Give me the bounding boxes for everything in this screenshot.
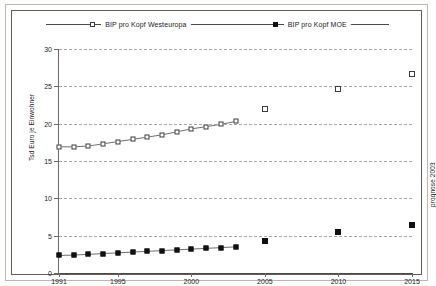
x-tick-label: 2015 xyxy=(404,278,420,285)
data-point-moe xyxy=(115,250,120,255)
data-point-moe xyxy=(159,248,164,253)
data-point-westeuropa xyxy=(159,132,164,137)
x-tick-label: 1995 xyxy=(110,278,126,285)
data-point-moe xyxy=(174,247,179,252)
legend-rule-mid-2 xyxy=(229,24,267,25)
x-tick xyxy=(338,273,339,277)
data-point-moe xyxy=(130,250,135,255)
data-point-westeuropa xyxy=(204,124,209,129)
x-tick-label: 2000 xyxy=(184,278,200,285)
legend-item-westeuropa[interactable]: BIP pro Kopf Westeuropa xyxy=(46,21,229,28)
data-point-westeuropa xyxy=(189,126,194,131)
data-point-moe xyxy=(101,251,106,256)
y-tick xyxy=(54,124,59,125)
data-point-westeuropa xyxy=(86,144,91,149)
gridline xyxy=(59,49,412,50)
plot-area: 051015202530199119952000200520102015 xyxy=(59,49,412,273)
data-point-westeuropa xyxy=(57,144,62,149)
legend-rule-left xyxy=(46,24,84,25)
data-point-westeuropa xyxy=(262,106,268,112)
y-tick-label: 15 xyxy=(44,158,52,165)
x-axis-baseline xyxy=(59,273,412,274)
legend-rule-mid xyxy=(191,24,229,25)
y-tick-label: 5 xyxy=(48,232,52,239)
data-point-westeuropa xyxy=(115,139,120,144)
data-point-westeuropa xyxy=(233,119,238,124)
data-point-moe xyxy=(57,253,62,258)
x-tick-label: 2005 xyxy=(257,278,273,285)
y-tick-label: 25 xyxy=(44,83,52,90)
data-point-moe xyxy=(204,246,209,251)
data-point-westeuropa xyxy=(130,137,135,142)
y-tick xyxy=(54,161,59,162)
prognose-annotation: prognose 2003 xyxy=(429,162,436,207)
data-point-moe xyxy=(218,245,223,250)
gridline xyxy=(59,86,412,87)
gridline xyxy=(59,236,412,237)
legend-item-moe[interactable]: BIP pro Kopf MOE xyxy=(229,21,389,28)
y-tick xyxy=(54,236,59,237)
chart-legend: BIP pro Kopf Westeuropa BIP pro Kopf MOE xyxy=(12,11,423,37)
data-point-moe xyxy=(409,222,415,228)
y-tick xyxy=(54,49,59,50)
legend-label-moe: BIP pro Kopf MOE xyxy=(284,21,351,28)
data-point-moe xyxy=(233,244,238,249)
data-point-westeuropa xyxy=(218,122,223,127)
y-tick-label: 0 xyxy=(48,270,52,277)
data-point-westeuropa xyxy=(409,71,415,77)
y-tick xyxy=(54,198,59,199)
x-tick xyxy=(59,273,60,277)
data-point-moe xyxy=(189,247,194,252)
gridline xyxy=(59,161,412,162)
data-point-westeuropa xyxy=(101,141,106,146)
y-tick-label: 30 xyxy=(44,46,52,53)
data-point-moe xyxy=(145,249,150,254)
data-point-moe xyxy=(335,229,341,235)
y-axis-title: Tsd Euro je Einwohner xyxy=(28,94,35,161)
x-tick xyxy=(265,273,266,277)
chart-frame: BIP pro Kopf Westeuropa BIP pro Kopf MOE… xyxy=(11,10,422,275)
legend-label-westeuropa: BIP pro Kopf Westeuropa xyxy=(101,21,190,28)
x-tick-label: 1991 xyxy=(51,278,67,285)
data-point-moe xyxy=(86,252,91,257)
y-tick-label: 20 xyxy=(44,120,52,127)
y-tick-label: 10 xyxy=(44,195,52,202)
gridline xyxy=(59,198,412,199)
x-tick xyxy=(412,273,413,277)
x-tick-label: 2010 xyxy=(331,278,347,285)
data-point-westeuropa xyxy=(335,86,341,92)
x-tick xyxy=(191,273,192,277)
data-point-westeuropa xyxy=(145,135,150,140)
data-point-moe xyxy=(262,238,268,244)
data-point-westeuropa xyxy=(174,129,179,134)
data-point-moe xyxy=(71,253,76,258)
y-tick xyxy=(54,86,59,87)
x-tick xyxy=(118,273,119,277)
data-point-westeuropa xyxy=(71,144,76,149)
legend-rule-right xyxy=(351,24,389,25)
